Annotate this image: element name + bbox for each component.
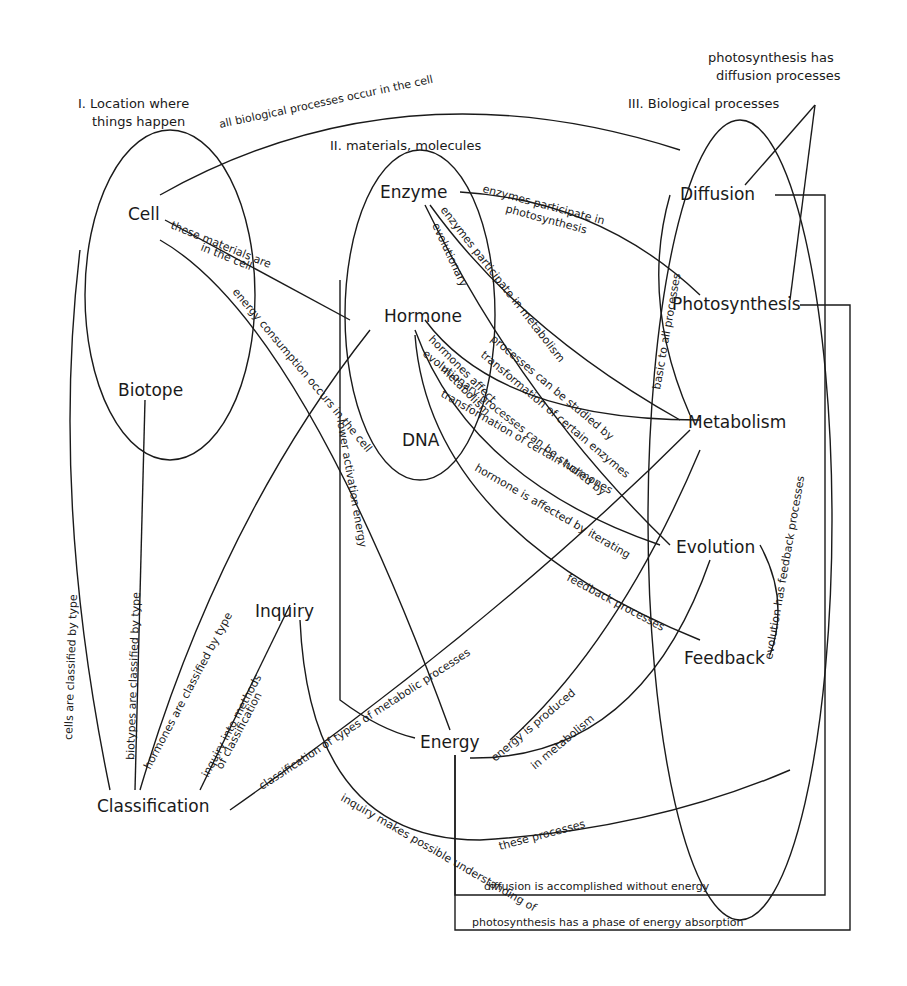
link-photosynthesis-absorption: photosynthesis has a phase of energy abs… <box>472 916 744 929</box>
link-materials-in-cell-1: these materials are <box>169 219 273 271</box>
link-energy-consumption: energy consumption occurs in the cell <box>230 286 375 455</box>
node-dna: DNA <box>402 430 440 450</box>
link-inquiry-classification-1: inquiry into methods <box>199 672 264 779</box>
node-metabolism: Metabolism <box>688 412 786 432</box>
link-cells-classified: cells are classified by type <box>62 594 80 740</box>
link-inquiry-understanding-1a: inquiry makes possible understanding of <box>339 791 540 915</box>
node-enzyme: Enzyme <box>380 182 448 202</box>
link-hormone-feedback-2: feedback processes <box>565 571 667 634</box>
region-processes-title: III. Biological processes <box>628 96 779 111</box>
link-photosynthesis-diffusion-1: photosynthesis has <box>708 50 834 65</box>
node-evolution: Evolution <box>676 537 755 557</box>
region-location-title-line2: things happen <box>92 114 185 129</box>
node-hormone: Hormone <box>384 306 462 326</box>
link-diffusion-no-energy: diffusion is accomplished without energy <box>484 880 710 893</box>
node-cell: Cell <box>128 204 160 224</box>
node-inquiry: Inquiry <box>255 601 314 621</box>
node-diffusion: Diffusion <box>680 184 755 204</box>
region-materials-title: II. materials, molecules <box>330 138 481 153</box>
link-classification-metabolic: classification of types of metabolic pro… <box>257 646 473 793</box>
link-energy-metabolism-1: energy is produced <box>489 686 578 764</box>
node-feedback: Feedback <box>684 648 765 668</box>
node-energy: Energy <box>420 732 480 752</box>
link-photosynthesis-diffusion-2: diffusion processes <box>716 68 841 83</box>
concept-map: I. Location where things happen II. mate… <box>0 0 907 986</box>
node-biotope: Biotope <box>118 380 183 400</box>
link-inquiry-understanding-2: these processes <box>497 817 586 853</box>
node-photosynthesis: Photosynthesis <box>672 294 801 314</box>
link-basic-to-all-processes: basic to all processes <box>650 272 683 390</box>
node-classification: Classification <box>97 796 209 816</box>
region-location-ellipse <box>85 130 255 460</box>
region-location-title-line1: I. Location where <box>78 96 189 111</box>
link-biotypes-classified: biotypes are classified by type <box>124 592 143 761</box>
region-processes-ellipse <box>648 120 832 920</box>
link-evolution-feedback: evolution has feedback processes <box>762 474 807 660</box>
link-all-processes-in-cell: all biological processes occur in the ce… <box>218 73 434 131</box>
